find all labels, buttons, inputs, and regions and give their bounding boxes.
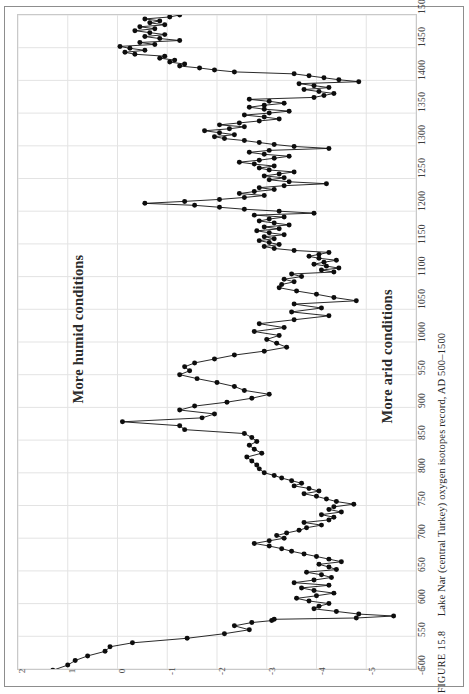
xtick-label: 550 bbox=[417, 622, 427, 637]
xtick-label: 900 bbox=[417, 392, 427, 407]
xtick-label: 950 bbox=[417, 360, 427, 375]
figure-caption: FIGURE 15.8Lake Nar (central Turkey) oxy… bbox=[436, 333, 447, 693]
xtick-label: 1250 bbox=[417, 158, 427, 178]
ytick-label: -1 bbox=[167, 667, 177, 675]
xtick-label: 1050 bbox=[417, 289, 427, 309]
ytick-label: -4 bbox=[317, 667, 327, 675]
xtick-label: 850 bbox=[417, 425, 427, 440]
xtick-label: 1150 bbox=[417, 224, 427, 244]
xtick-label: 1200 bbox=[417, 191, 427, 211]
figure-area: More humid conditions More arid conditio… bbox=[5, 7, 440, 686]
xtick-label: 800 bbox=[417, 458, 427, 473]
xtick-label: 1350 bbox=[417, 92, 427, 112]
delta-o18-axis: -6-5-4-3-2-1012 bbox=[17, 671, 417, 694]
ytick-label: -2 bbox=[217, 667, 227, 675]
figure-number: FIGURE 15.8 bbox=[436, 630, 447, 693]
ytick-label: -3 bbox=[267, 667, 277, 675]
xtick-label: 1450 bbox=[417, 27, 427, 47]
xtick-label: 1300 bbox=[417, 125, 427, 145]
xtick-label: 1100 bbox=[417, 257, 427, 277]
xtick-label: 500 bbox=[417, 655, 427, 670]
figure-caption-text: Lake Nar (central Turkey) oxygen isotope… bbox=[436, 333, 447, 617]
plot-area: More humid conditions More arid conditio… bbox=[17, 14, 417, 670]
xtick-label: 750 bbox=[417, 491, 427, 506]
annotation-more-arid-conditions: More arid conditions bbox=[379, 289, 396, 423]
xtick-label: 1500 bbox=[417, 0, 427, 14]
xtick-label: 1400 bbox=[417, 59, 427, 79]
ytick-label: -5 bbox=[367, 667, 377, 675]
ytick-label: 2 bbox=[17, 669, 27, 674]
ytick-label: 1 bbox=[67, 669, 77, 674]
xtick-label: 600 bbox=[417, 589, 427, 604]
xtick-label: 700 bbox=[417, 524, 427, 539]
xtick-label: 650 bbox=[417, 556, 427, 571]
xtick-label: 1000 bbox=[417, 322, 427, 342]
ytick-label: 0 bbox=[117, 669, 127, 674]
annotation-more-humid-conditions: More humid conditions bbox=[70, 255, 87, 404]
